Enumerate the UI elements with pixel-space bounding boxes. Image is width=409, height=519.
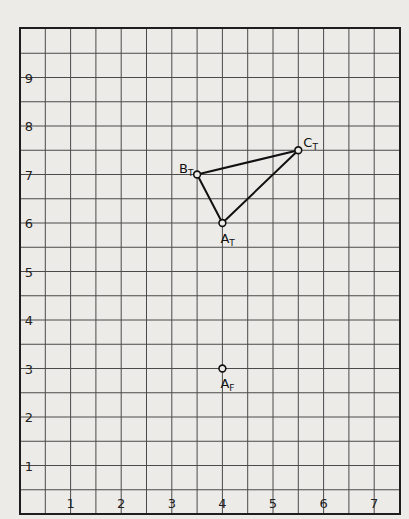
x-tick-label: 3: [168, 496, 176, 511]
x-tick-label: 1: [66, 496, 74, 511]
point-marker: [219, 220, 226, 227]
point-marker: [295, 147, 302, 154]
grid-lines: [20, 28, 400, 514]
coordinate-grid: 1234567 123456789 ATBTCTAF: [0, 0, 409, 519]
point-label: AF: [220, 376, 234, 393]
y-tick-label: 3: [25, 362, 33, 377]
y-tick-label: 4: [25, 313, 33, 328]
point-marker: [194, 171, 201, 178]
y-axis-tick-labels: 123456789: [25, 71, 33, 474]
point-a-f: AF: [219, 365, 234, 392]
y-tick-label: 9: [25, 71, 33, 86]
x-tick-label: 6: [319, 496, 327, 511]
y-tick-label: 8: [25, 119, 33, 134]
x-axis-tick-labels: 1234567: [66, 496, 378, 511]
x-tick-label: 2: [117, 496, 125, 511]
x-tick-label: 4: [218, 496, 226, 511]
y-tick-label: 7: [25, 168, 33, 183]
x-tick-label: 7: [370, 496, 378, 511]
point-label: AT: [220, 231, 235, 248]
y-tick-label: 1: [25, 459, 33, 474]
point-label: CT: [303, 135, 318, 152]
plotted-points: ATBTCTAF: [179, 135, 318, 392]
y-tick-label: 5: [25, 265, 33, 280]
point-marker: [219, 365, 226, 372]
point-label: BT: [179, 161, 194, 178]
graph-paper-diagram: 1234567 123456789 ATBTCTAF: [0, 0, 409, 519]
y-tick-label: 6: [25, 216, 33, 231]
x-tick-label: 5: [269, 496, 277, 511]
point-a-t: AT: [219, 220, 235, 248]
y-tick-label: 2: [25, 410, 33, 425]
